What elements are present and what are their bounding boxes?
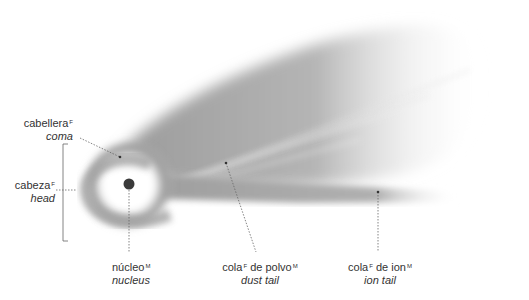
label-coma: cabelleraF coma	[5, 117, 73, 143]
label-ion-tail: colaF de ionM ion tail	[340, 261, 420, 287]
label-dust-tail: colaF de polvoM dust tail	[210, 261, 310, 287]
label-nucleus: núcleoM nucleus	[112, 261, 150, 287]
nucleus-dot	[124, 179, 135, 190]
comet-illustration	[0, 0, 529, 300]
label-head: cabezaF head	[0, 179, 55, 205]
head-bracket	[63, 144, 68, 241]
